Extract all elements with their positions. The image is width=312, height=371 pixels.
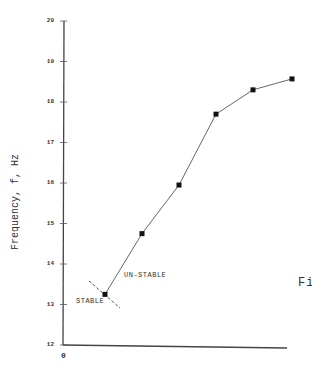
y-tick-label: 12 <box>34 341 54 348</box>
data-point-marker <box>214 112 219 117</box>
x-axis-line <box>63 345 287 348</box>
figure-label: Fi <box>298 276 312 290</box>
y-axis-label: Frequency, f, Hz <box>10 154 21 250</box>
y-tick-label: 20 <box>34 17 54 24</box>
data-line <box>105 79 292 294</box>
stable-annotation: STABLE <box>76 297 104 305</box>
data-point-marker <box>251 87 256 92</box>
y-tick-label: 18 <box>34 98 54 105</box>
data-point-marker <box>290 76 295 81</box>
y-tick-label: 17 <box>34 139 54 146</box>
x-origin-label: 0 <box>61 351 66 360</box>
y-tick-label: 19 <box>34 58 54 65</box>
y-tick-label: 16 <box>34 179 54 186</box>
unstable-annotation: UN-STABLE <box>124 271 166 279</box>
data-point-marker <box>140 231 145 236</box>
y-tick-label: 15 <box>34 220 54 227</box>
y-tick-label: 13 <box>34 301 54 308</box>
y-tick-label: 14 <box>34 260 54 267</box>
data-point-marker <box>177 183 182 188</box>
